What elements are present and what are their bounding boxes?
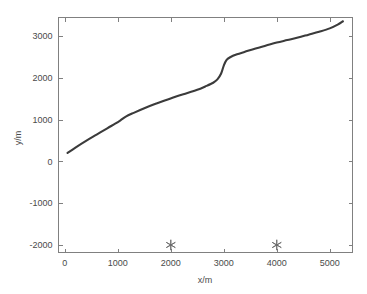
x-tick-label: 3000: [214, 258, 234, 268]
station-marker: [272, 240, 281, 250]
x-tick-label: 0: [62, 258, 67, 268]
station-marker: [166, 240, 175, 250]
y-tick-label: 2000: [32, 73, 52, 83]
x-tick-label: 5000: [320, 258, 340, 268]
trajectory-curve: [68, 21, 343, 153]
x-tick-label: 1000: [108, 258, 128, 268]
y-axis-ticks: [59, 37, 353, 246]
y-tick-label: 0: [47, 157, 52, 167]
plot-axes-box: [59, 18, 353, 253]
station-marker-group: [166, 240, 281, 250]
x-axis-title: x/m: [198, 275, 213, 285]
x-axis-tick-labels: 010002000300040005000: [62, 258, 339, 268]
x-tick-label: 4000: [267, 258, 287, 268]
plot-canvas: 010002000300040005000 -2000-100001000200…: [0, 0, 367, 294]
y-tick-label: 3000: [32, 31, 52, 41]
chart-figure: 010002000300040005000 -2000-100001000200…: [0, 0, 367, 294]
x-axis-ticks: [66, 18, 331, 253]
y-tick-label: -2000: [29, 240, 52, 250]
x-tick-label: 2000: [161, 258, 181, 268]
y-tick-label: 1000: [32, 115, 52, 125]
y-tick-label: -1000: [29, 198, 52, 208]
y-axis-tick-labels: -2000-10000100020003000: [29, 31, 52, 250]
y-axis-title: y/m: [13, 131, 23, 146]
